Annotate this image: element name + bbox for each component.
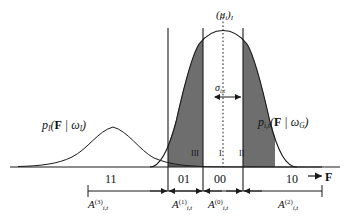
region-label-II: II	[239, 150, 244, 158]
interval-label-A2: A(2)i,t	[278, 198, 298, 211]
diagram-svg	[0, 0, 357, 223]
figure-canvas: pI(F | ωI) pi,t(F | ωG) (μi)I σi,t III I…	[0, 0, 357, 223]
code-label-11: 11	[105, 172, 117, 187]
feature-axis-label: F	[325, 170, 332, 185]
interval-label-A3: A(3)i,t	[88, 198, 108, 211]
narrow-curve-label: pi,t(F | ωG)	[258, 116, 309, 129]
region-label-I: I	[219, 150, 222, 158]
region-label-III: III	[191, 150, 199, 158]
sigma-label: σi,t	[215, 83, 225, 94]
interval-label-A0: A(0)i,t	[208, 198, 228, 211]
code-label-01: 01	[178, 172, 190, 187]
interval-label-A1: A(1)i,t	[172, 198, 192, 211]
code-label-10: 10	[286, 172, 298, 187]
wide-curve-label: pI(F | ωI)	[42, 119, 86, 132]
code-label-00: 00	[214, 172, 226, 187]
mean-label: (μi)I	[216, 9, 233, 22]
